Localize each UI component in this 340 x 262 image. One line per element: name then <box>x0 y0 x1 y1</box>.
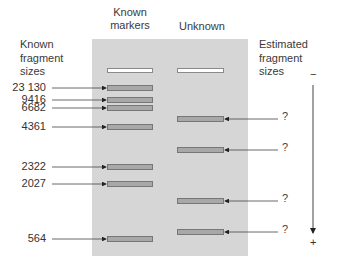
negative-electrode-label: − <box>310 68 316 80</box>
positive-electrode-label: + <box>310 236 316 248</box>
arrows-layer <box>0 0 340 262</box>
